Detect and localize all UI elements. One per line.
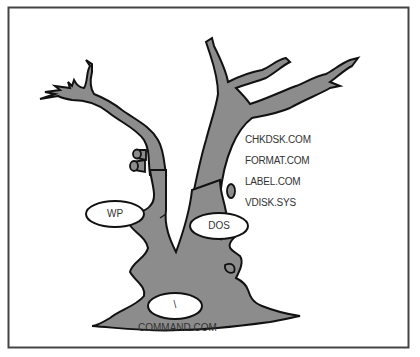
node-dos-label: DOS (200, 220, 238, 231)
node-wp-label: WP (100, 208, 130, 219)
dos-file-item: VDISK.SYS (245, 197, 296, 208)
diagram-canvas: WP DOS \ COMMAND.COM CHKDSK.COM FORMAT.C… (0, 0, 420, 357)
dos-file-item: CHKDSK.COM (245, 134, 311, 145)
left-branch (40, 60, 166, 175)
dos-file-item: FORMAT.COM (245, 155, 309, 166)
root-caption: COMMAND.COM (138, 322, 214, 333)
node-root-label: \ (165, 299, 185, 310)
dos-file-item: LABEL.COM (245, 176, 300, 187)
tree-illustration (0, 0, 420, 357)
